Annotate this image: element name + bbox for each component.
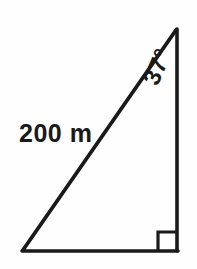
hypotenuse-length-label: 200 m bbox=[19, 119, 92, 148]
right-angle-marker-icon bbox=[158, 232, 177, 251]
diagram-canvas: 200 m 37° bbox=[0, 0, 197, 269]
